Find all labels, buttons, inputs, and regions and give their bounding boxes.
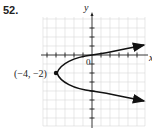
vertex-point — [54, 71, 58, 75]
parabola-lower-branch — [57, 73, 144, 101]
vertex-label: (−4, −2) — [14, 68, 47, 80]
parabola-graph: y x 0 (−4, −2) — [0, 0, 152, 132]
parabola-upper-branch — [57, 45, 144, 73]
x-axis-label: x — [148, 52, 152, 63]
y-axis-label: y — [83, 2, 89, 13]
axes — [41, 12, 148, 128]
origin-label: 0 — [86, 57, 91, 67]
